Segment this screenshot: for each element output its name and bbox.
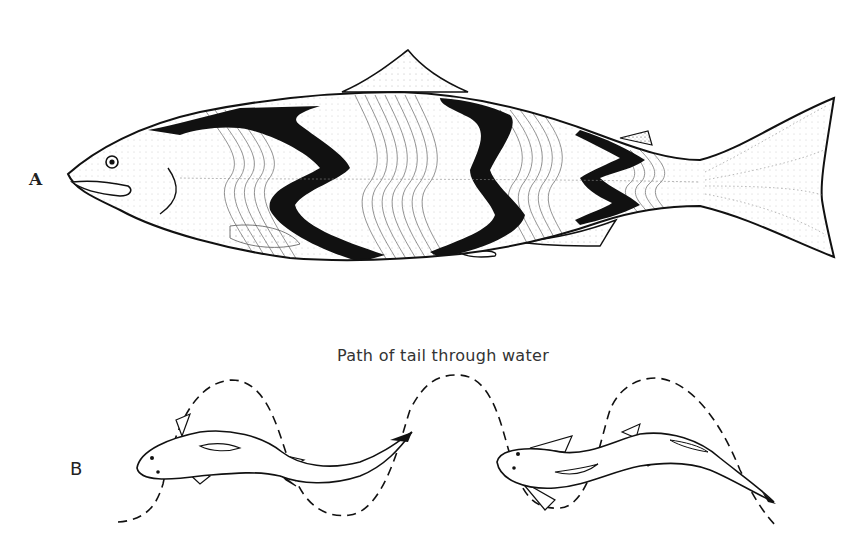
swimming-fish-left — [137, 414, 412, 486]
adipose-fin — [620, 131, 652, 145]
salmon-drawing — [60, 50, 840, 270]
dorsal-fin — [342, 50, 468, 92]
figure-illustration — [0, 0, 856, 553]
swimming-fish-right — [497, 424, 776, 510]
